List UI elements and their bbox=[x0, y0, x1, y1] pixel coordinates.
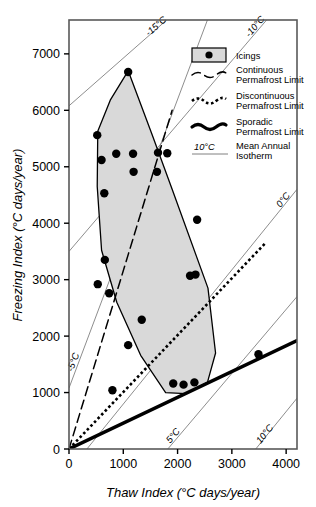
x-tick-label: 3000 bbox=[218, 457, 246, 471]
permafrost-icings-scatter-chart: -15°C-10°C-5°C0°C5°C10°C 010002000300040… bbox=[0, 0, 316, 507]
y-axis: 01000200030004000500060007000 bbox=[32, 47, 69, 456]
chart-legend: IcingsContinuousPermafrost LimitDisconti… bbox=[192, 48, 304, 161]
data-point bbox=[100, 189, 108, 197]
data-point bbox=[129, 168, 137, 176]
x-axis: 01000200030004000 bbox=[66, 449, 301, 471]
y-tick-label: 0 bbox=[53, 443, 60, 457]
legend-label-mean-annual: Mean Annual bbox=[236, 141, 290, 151]
legend-symbol-discontinuous bbox=[192, 98, 226, 104]
data-point bbox=[154, 148, 162, 156]
data-point bbox=[179, 380, 187, 388]
legend-symbol-continuous bbox=[192, 72, 226, 78]
legend-isotherm-value: 10°C bbox=[194, 142, 215, 152]
y-tick-label: 3000 bbox=[32, 273, 60, 287]
y-tick-label: 5000 bbox=[32, 160, 60, 174]
legend-label-discontinuous: Discontinuous bbox=[236, 91, 295, 101]
legend-label-icings: Icings bbox=[236, 51, 261, 61]
data-point bbox=[129, 150, 137, 158]
y-tick-label: 4000 bbox=[32, 217, 60, 231]
isotherm-label-10C: 10°C bbox=[253, 422, 275, 446]
legend-label-isotherm: Isotherm bbox=[236, 151, 272, 161]
data-point bbox=[124, 341, 132, 349]
isotherm-label-5C: 5°C bbox=[163, 426, 182, 445]
data-point bbox=[163, 149, 171, 157]
legend-label-sporadic-line2: Permafrost Limit bbox=[236, 127, 304, 137]
x-tick-label: 0 bbox=[66, 457, 73, 471]
data-point bbox=[193, 216, 201, 224]
legend-symbol-sporadic bbox=[192, 124, 226, 130]
legend-label-continuous: Continuous bbox=[236, 65, 283, 75]
x-axis-title: Thaw Index (°C days/year) bbox=[106, 485, 260, 500]
y-tick-label: 7000 bbox=[32, 47, 60, 61]
data-point bbox=[153, 168, 161, 176]
data-point bbox=[105, 289, 113, 297]
legend-icings-marker bbox=[205, 51, 212, 58]
data-point bbox=[101, 256, 109, 264]
legend-label-discontinuous-line2: Permafrost Limit bbox=[236, 101, 304, 111]
data-point bbox=[97, 156, 105, 164]
y-tick-label: 6000 bbox=[32, 104, 60, 118]
data-point bbox=[190, 378, 198, 386]
isotherm-label--15C: -15°C bbox=[143, 14, 169, 38]
icings-envelope-polygon bbox=[97, 71, 215, 394]
figure-container: -15°C-10°C-5°C0°C5°C10°C 010002000300040… bbox=[0, 0, 316, 507]
data-point bbox=[254, 350, 262, 358]
data-point bbox=[124, 68, 132, 76]
x-tick-label: 2000 bbox=[164, 457, 192, 471]
isotherm-label--10C: -10°C bbox=[243, 13, 267, 39]
icings-envelope-region bbox=[97, 71, 215, 394]
data-point bbox=[138, 316, 146, 324]
y-axis-title: Freezing Index (°C days/year) bbox=[10, 149, 25, 322]
y-tick-label: 1000 bbox=[32, 386, 60, 400]
y-tick-label: 2000 bbox=[32, 330, 60, 344]
data-point bbox=[112, 150, 120, 158]
data-point bbox=[93, 131, 101, 139]
legend-label-sporadic: Sporadic bbox=[236, 117, 273, 127]
data-point bbox=[191, 270, 199, 278]
x-tick-label: 1000 bbox=[109, 457, 137, 471]
isotherm-label-0C: 0°C bbox=[274, 190, 293, 209]
x-tick-label: 4000 bbox=[272, 457, 300, 471]
legend-label-continuous-line2: Permafrost Limit bbox=[236, 75, 304, 85]
data-point bbox=[94, 280, 102, 288]
data-point bbox=[169, 379, 177, 387]
data-point bbox=[108, 386, 116, 394]
